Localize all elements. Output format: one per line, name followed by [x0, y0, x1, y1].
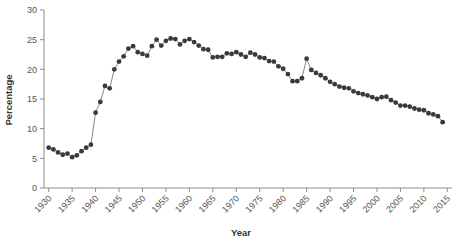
data-point — [309, 68, 314, 73]
data-point — [201, 47, 206, 52]
data-point — [384, 94, 389, 99]
data-point — [112, 67, 117, 72]
data-point — [304, 56, 309, 61]
data-point — [351, 89, 356, 94]
data-point — [253, 52, 258, 57]
x-tick-label: 1995 — [337, 193, 358, 214]
data-point — [290, 79, 295, 84]
x-axis: 1930193519401945195019551960196519701975… — [32, 188, 452, 215]
x-tick-label: 1985 — [290, 193, 311, 214]
y-tick-label: 25 — [27, 35, 37, 45]
y-tick-label: 5 — [32, 154, 37, 164]
data-point — [285, 72, 290, 77]
data-point — [361, 92, 366, 97]
data-point — [300, 76, 305, 81]
data-point — [281, 66, 286, 71]
data-point — [257, 55, 262, 60]
data-point — [239, 52, 244, 57]
data-point — [70, 155, 75, 160]
data-point — [51, 147, 56, 152]
data-point — [421, 108, 426, 113]
data-point — [89, 142, 94, 147]
data-series — [46, 36, 445, 159]
data-point — [375, 97, 380, 102]
x-tick-label: 2015 — [431, 193, 452, 214]
x-tick-label: 2005 — [384, 193, 405, 214]
data-point — [431, 112, 436, 117]
data-point — [84, 145, 89, 150]
data-point — [356, 91, 361, 96]
x-tick-label: 1955 — [150, 193, 171, 214]
data-point — [220, 54, 225, 59]
data-point — [295, 79, 300, 84]
data-point — [154, 37, 159, 42]
y-axis-title: Percentage — [3, 74, 14, 125]
x-tick-label: 1970 — [220, 193, 241, 214]
y-axis: 051015202530 — [27, 5, 44, 193]
data-point — [398, 103, 403, 108]
data-point — [407, 104, 412, 109]
data-point — [365, 93, 370, 98]
data-point — [182, 38, 187, 43]
data-point — [164, 38, 169, 43]
data-point — [196, 43, 201, 48]
data-point — [248, 50, 253, 55]
x-tick-label: 1945 — [103, 193, 124, 214]
data-point — [98, 100, 103, 105]
x-tick-label: 1990 — [314, 193, 335, 214]
data-point — [140, 52, 145, 57]
y-tick-label: 0 — [32, 183, 37, 193]
data-point — [436, 114, 441, 119]
data-point — [389, 98, 394, 103]
data-point — [403, 103, 408, 108]
data-point — [215, 54, 220, 59]
data-point — [187, 37, 192, 42]
data-point — [131, 44, 136, 49]
data-point — [262, 56, 267, 61]
data-point — [440, 120, 445, 125]
x-tick-label: 1940 — [79, 193, 100, 214]
data-point — [318, 73, 323, 78]
data-point — [178, 42, 183, 47]
data-point — [107, 86, 112, 91]
data-point — [56, 150, 61, 155]
x-tick-label: 1935 — [56, 193, 77, 214]
data-point — [210, 55, 215, 60]
data-point — [46, 145, 51, 150]
data-point — [192, 40, 197, 45]
data-point — [417, 107, 422, 112]
data-point — [229, 52, 234, 57]
data-point — [346, 86, 351, 91]
data-point — [159, 43, 164, 48]
data-point — [267, 59, 272, 64]
data-point — [121, 54, 126, 59]
data-point — [135, 50, 140, 55]
y-tick-label: 15 — [27, 94, 37, 104]
data-point — [323, 76, 328, 81]
x-tick-label: 1930 — [32, 193, 53, 214]
data-point — [328, 79, 333, 84]
data-point — [379, 95, 384, 100]
x-tick-label: 1980 — [267, 193, 288, 214]
data-point — [370, 95, 375, 100]
data-point — [74, 153, 79, 158]
data-point — [393, 100, 398, 105]
x-tick-label: 1965 — [197, 193, 218, 214]
data-point — [103, 84, 108, 89]
data-point — [65, 151, 70, 156]
y-tick-label: 30 — [27, 5, 37, 15]
data-point — [337, 84, 342, 89]
x-tick-label: 2000 — [361, 193, 382, 214]
chart-container: 051015202530 193019351940194519501955196… — [0, 0, 462, 242]
data-point — [234, 50, 239, 55]
data-point — [412, 106, 417, 111]
data-point — [79, 149, 84, 154]
x-tick-label: 1950 — [126, 193, 147, 214]
data-point — [332, 82, 337, 87]
data-point — [173, 37, 178, 42]
line-chart: 051015202530 193019351940194519501955196… — [0, 0, 462, 242]
x-tick-label: 1960 — [173, 193, 194, 214]
x-tick-label: 1975 — [243, 193, 264, 214]
data-point — [93, 110, 98, 115]
data-point — [243, 54, 248, 59]
